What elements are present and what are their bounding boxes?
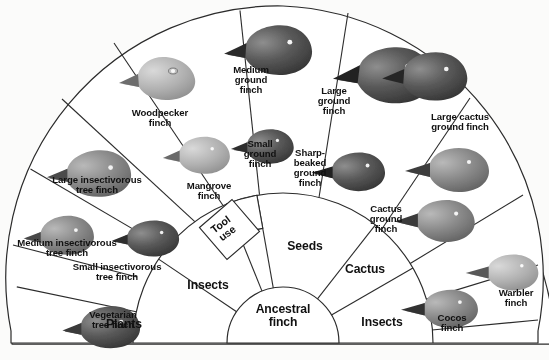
fan-diagram-lines (0, 0, 549, 360)
figure-canvas: Ancestral finch Plants Insects Tool use … (0, 0, 549, 360)
